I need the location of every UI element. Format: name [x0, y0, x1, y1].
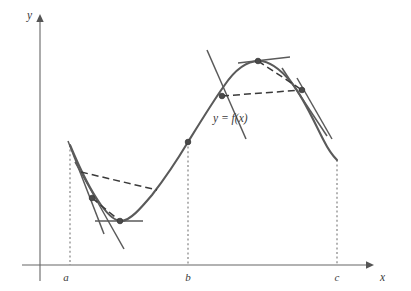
point-local-maximum: [255, 58, 261, 64]
function-curve: [70, 61, 337, 221]
x-axis-label: x: [379, 271, 386, 283]
secant-max-to-right: [258, 61, 302, 90]
secant-across-hump: [222, 90, 302, 96]
point-local-minimum: [117, 218, 123, 224]
x-tick-label-b: b: [185, 271, 191, 283]
point-left-secant: [89, 195, 95, 201]
point-right-of-max: [299, 87, 305, 93]
secant-a-to-curve: [81, 172, 157, 190]
point-left-of-max: [219, 93, 225, 99]
tangent-at-left-secant-point: [75, 162, 124, 249]
x-axis-arrowhead: [366, 261, 374, 268]
point-at-b: [185, 139, 191, 145]
y-axis-label: y: [26, 9, 33, 22]
y-axis-arrowhead: [36, 14, 43, 22]
graph-canvas: y x a b c y = f(x): [0, 0, 411, 291]
function-label: y = f(x): [212, 112, 248, 125]
x-tick-label-c: c: [335, 271, 340, 283]
calculus-graph-figure: y x a b c y = f(x): [0, 0, 411, 291]
x-tick-label-a: a: [63, 271, 69, 283]
